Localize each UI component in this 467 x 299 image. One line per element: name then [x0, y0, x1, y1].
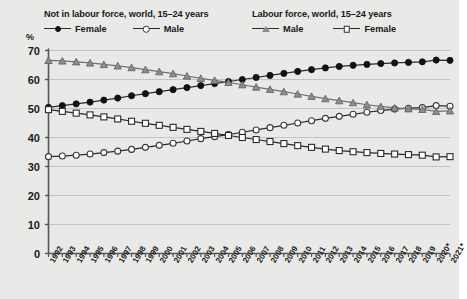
data-point-square-open — [309, 144, 315, 150]
data-point-circle-filled — [59, 103, 65, 109]
data-point-square-open — [336, 148, 342, 154]
data-point-square-open — [378, 150, 384, 156]
data-point-circle-filled — [322, 65, 328, 71]
data-point-circle-open — [253, 127, 259, 133]
data-point-square-open — [392, 151, 398, 157]
data-point-circle-open — [267, 125, 273, 131]
data-point-circle-open — [184, 138, 190, 144]
data-point-circle-filled — [156, 89, 162, 95]
data-point-circle-open — [73, 152, 79, 158]
data-point-circle-open — [115, 148, 121, 154]
data-point-square-open — [101, 114, 107, 120]
data-point-square-open — [433, 154, 439, 160]
data-point-square-open — [419, 152, 425, 158]
data-point-circle-open — [295, 120, 301, 126]
data-point-square-open — [212, 130, 218, 136]
data-point-circle-open — [336, 113, 342, 119]
data-point-square-open — [87, 112, 93, 118]
data-point-square-open — [350, 149, 356, 155]
data-point-circle-filled — [433, 57, 439, 63]
data-point-square-open — [46, 107, 52, 113]
data-point-square-open — [170, 124, 176, 130]
data-point-circle-filled — [350, 62, 356, 68]
data-point-circle-filled — [115, 95, 121, 101]
data-point-square-open — [73, 110, 79, 116]
data-point-square-open — [115, 116, 121, 122]
data-point-circle-filled — [128, 93, 134, 99]
data-point-circle-open — [364, 109, 370, 115]
data-point-circle-filled — [405, 59, 411, 65]
data-point-circle-filled — [447, 57, 453, 63]
data-point-square-open — [142, 120, 148, 126]
data-point-square-open — [59, 108, 65, 114]
data-point-circle-filled — [378, 60, 384, 66]
data-point-circle-open — [59, 153, 65, 159]
data-point-circle-open — [142, 144, 148, 150]
data-point-square-open — [322, 146, 328, 152]
data-point-circle-filled — [364, 61, 370, 67]
data-point-circle-filled — [308, 67, 314, 73]
data-point-square-open — [281, 141, 287, 147]
data-point-square-open — [129, 118, 135, 124]
data-point-circle-filled — [392, 60, 398, 66]
data-point-circle-open — [170, 140, 176, 146]
data-point-circle-open — [322, 115, 328, 121]
data-point-circle-filled — [281, 70, 287, 76]
data-point-square-open — [156, 122, 162, 128]
data-point-square-open — [184, 126, 190, 132]
data-point-circle-filled — [170, 87, 176, 93]
data-point-circle-filled — [253, 74, 259, 80]
data-point-square-open — [225, 132, 231, 138]
data-point-square-open — [295, 143, 301, 149]
data-point-circle-filled — [336, 63, 342, 69]
data-point-circle-filled — [419, 59, 425, 65]
data-point-circle-open — [281, 122, 287, 128]
data-point-square-open — [267, 139, 273, 145]
data-point-circle-filled — [73, 101, 79, 107]
data-point-square-open — [198, 128, 204, 134]
data-point-circle-open — [46, 154, 52, 160]
data-point-square-open — [405, 152, 411, 158]
data-point-square-open — [447, 154, 453, 160]
data-point-circle-filled — [87, 99, 93, 105]
data-point-circle-filled — [198, 82, 204, 88]
data-point-circle-filled — [142, 91, 148, 97]
data-point-circle-filled — [101, 97, 107, 103]
data-point-square-open — [253, 137, 259, 143]
data-point-circle-open — [350, 111, 356, 117]
data-point-circle-open — [198, 136, 204, 142]
data-point-circle-open — [309, 118, 315, 124]
data-point-square-open — [364, 150, 370, 156]
data-point-square-open — [239, 135, 245, 141]
data-point-circle-open — [87, 151, 93, 157]
data-point-circle-open — [156, 142, 162, 148]
data-point-circle-open — [129, 146, 135, 152]
data-point-circle-open — [101, 150, 107, 156]
data-point-circle-filled — [184, 85, 190, 91]
data-point-circle-filled — [295, 68, 301, 74]
data-point-circle-filled — [267, 72, 273, 78]
